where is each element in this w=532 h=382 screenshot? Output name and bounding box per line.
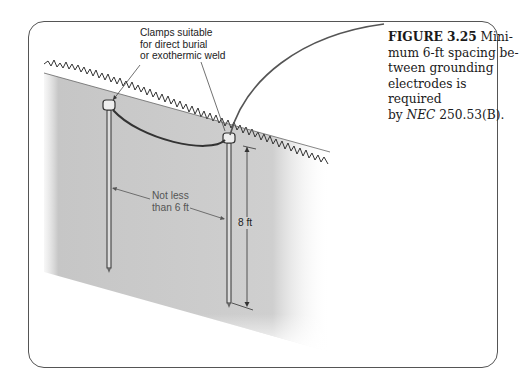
section-reference: 250.53(B).: [435, 108, 504, 122]
spacing-callout: Not less than 6 ft: [152, 190, 189, 213]
figure-label: FIGURE 3.25: [388, 30, 477, 44]
clamp-left: [103, 100, 115, 110]
figure-caption: FIGURE 3.25 Mini- mum 6-ft spacing be- t…: [388, 30, 520, 123]
nec-citation: NEC: [407, 108, 436, 122]
caption-text: by: [388, 108, 407, 122]
caption-text: Mini-: [481, 30, 513, 44]
spacing-callout-line: Not less: [152, 190, 189, 202]
caption-text: electrodes is required: [388, 77, 467, 107]
clamps-callout: Clamps suitable for direct burial or exo…: [140, 27, 226, 62]
caption-text: tween grounding: [388, 61, 494, 75]
spacing-callout-line: than 6 ft: [152, 202, 189, 214]
electrode-right: [227, 143, 231, 303]
clamps-callout-line: or exothermic weld: [140, 50, 226, 62]
electrode-left: [107, 110, 111, 268]
clamps-callout-line: Clamps suitable: [140, 27, 226, 39]
grounding-conductor: [230, 24, 384, 135]
caption-text: mum 6-ft spacing be-: [388, 46, 519, 60]
depth-label: 8 ft: [237, 217, 253, 229]
clamps-callout-line: for direct burial: [140, 39, 226, 51]
